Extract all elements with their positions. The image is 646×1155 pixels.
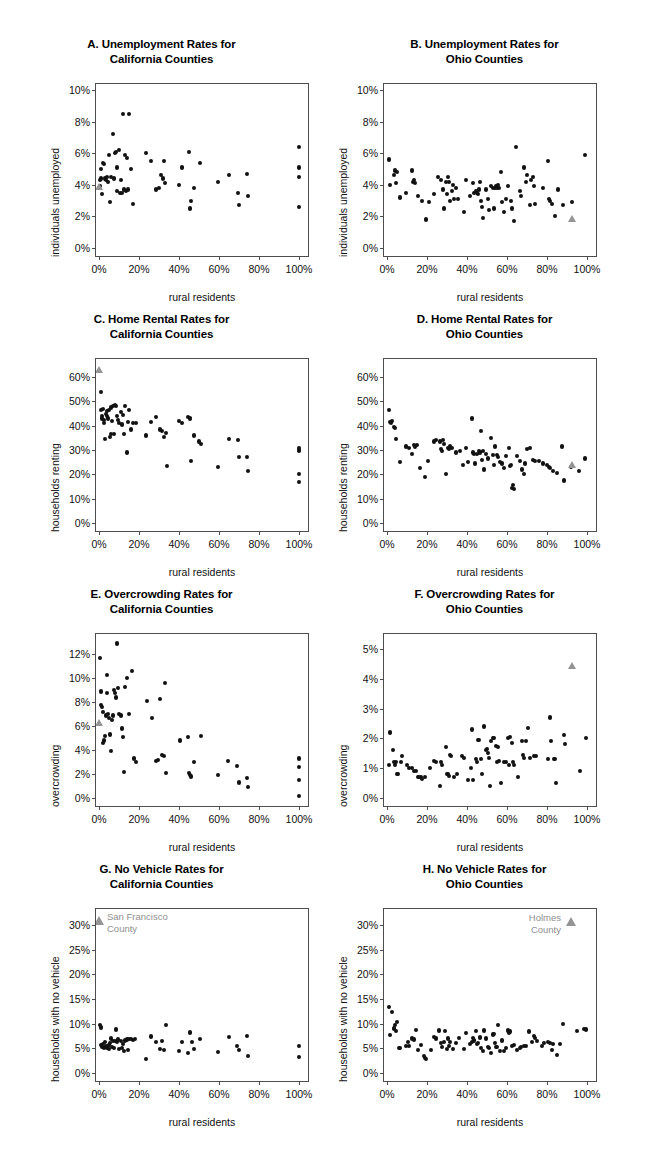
data-point [469, 766, 473, 770]
data-point [189, 199, 193, 203]
data-point [115, 641, 119, 645]
data-point [154, 415, 158, 419]
data-point [489, 436, 493, 440]
data-point [400, 754, 404, 758]
data-point [479, 199, 483, 203]
data-point [492, 463, 496, 467]
y-tick-label: 12% [69, 648, 90, 660]
x-tick-label: 40% [168, 813, 189, 825]
x-tick-label: 100% [574, 1088, 601, 1100]
data-point [112, 432, 116, 436]
data-point [448, 1040, 452, 1044]
data-point [429, 1048, 433, 1052]
plot-area: 0%5%10%15%20%25%30%0%20%40%60%80%100%San… [95, 908, 309, 1082]
y-tick-label: 0% [75, 242, 90, 254]
data-point [216, 1050, 220, 1054]
data-point [119, 178, 123, 182]
data-point [121, 413, 125, 417]
data-point [522, 756, 526, 760]
data-point [246, 1054, 250, 1058]
x-tick-label: 20% [416, 263, 437, 275]
data-point [163, 681, 167, 685]
data-point [297, 145, 301, 149]
y-axis-title: overcrowding [337, 745, 349, 807]
x-tick-label: 0% [379, 1088, 394, 1100]
data-point [391, 748, 395, 752]
y-tick-label: 10% [69, 84, 90, 96]
x-tick-label: 20% [416, 813, 437, 825]
x-tick-label: 80% [536, 263, 557, 275]
x-tick-mark [547, 1081, 548, 1085]
data-point [410, 452, 414, 456]
data-point [123, 685, 127, 689]
data-point [297, 472, 301, 476]
x-tick-label: 0% [91, 263, 106, 275]
y-tick-label: 20% [69, 468, 90, 480]
data-point [439, 178, 443, 182]
data-point [144, 433, 148, 437]
x-tick-label: 60% [208, 538, 229, 550]
data-point [468, 194, 472, 198]
data-point [583, 153, 587, 157]
data-point [131, 202, 135, 206]
x-axis-title: rural residents [383, 291, 597, 303]
panel-title: G. No Vehicle Rates for California Count… [0, 862, 323, 891]
data-point [487, 208, 491, 212]
data-point [437, 1028, 441, 1032]
x-tick-label: 60% [208, 1088, 229, 1100]
panel-f: F. Overcrowding Rates for Ohio Counties0… [323, 585, 646, 857]
highlighted-county-marker [96, 916, 104, 925]
x-tick-label: 80% [536, 538, 557, 550]
data-point [484, 1036, 488, 1040]
data-point [515, 454, 519, 458]
x-tick-label: 80% [248, 538, 269, 550]
data-point [549, 739, 553, 743]
data-point [512, 1043, 516, 1047]
data-point [462, 756, 466, 760]
data-point [114, 404, 118, 408]
data-point [297, 1044, 301, 1048]
data-point [487, 756, 491, 760]
data-point [237, 1048, 241, 1052]
y-tick-label: 6% [75, 720, 90, 732]
data-point [99, 390, 103, 394]
data-point [112, 1046, 116, 1050]
data-point [144, 151, 148, 155]
data-point [534, 754, 538, 758]
plot-area: 0%10%20%30%40%50%60%0%20%40%60%80%100% [95, 358, 309, 532]
data-point [121, 112, 125, 116]
data-point [127, 112, 131, 116]
data-point [474, 1029, 478, 1033]
data-point [442, 206, 446, 210]
data-point [523, 461, 527, 465]
data-point [114, 1027, 118, 1031]
x-tick-mark [547, 256, 548, 260]
data-point [496, 1023, 500, 1027]
data-point [162, 1048, 166, 1052]
data-point [458, 449, 462, 453]
data-point [387, 1005, 391, 1009]
data-point [519, 194, 523, 198]
y-axis-title: households with no vehicle [49, 957, 61, 1083]
y-tick-label: 5% [75, 1042, 90, 1054]
y-tick-label: 10% [69, 493, 90, 505]
data-point [510, 206, 514, 210]
data-point [414, 769, 418, 773]
data-point [434, 1036, 438, 1040]
data-point [246, 785, 250, 789]
data-point [297, 794, 301, 798]
data-point [107, 153, 111, 157]
x-tick-label: 80% [248, 263, 269, 275]
data-point [423, 775, 427, 779]
data-point [550, 1048, 554, 1052]
data-point [466, 460, 470, 464]
data-point [455, 772, 459, 776]
data-point [504, 1046, 508, 1050]
data-point [388, 183, 392, 187]
y-tick-label: 4% [75, 744, 90, 756]
data-point [236, 191, 240, 195]
data-point [180, 165, 184, 169]
data-point [522, 472, 526, 476]
data-point [390, 419, 394, 423]
data-point [237, 203, 241, 207]
